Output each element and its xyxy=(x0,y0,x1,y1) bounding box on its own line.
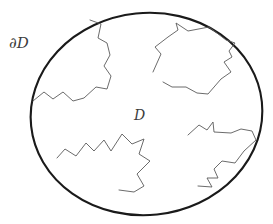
bottom-left-jagged-region xyxy=(57,134,150,192)
domain-label: D xyxy=(134,108,145,122)
bottom-right-jagged-region xyxy=(188,122,256,187)
top-left-jagged-region xyxy=(33,20,111,101)
top-right-jagged-region xyxy=(153,23,235,94)
figure-container: ∂D D xyxy=(0,0,273,224)
boundary-ellipse xyxy=(21,1,273,224)
boundary-label: ∂D xyxy=(9,36,29,51)
